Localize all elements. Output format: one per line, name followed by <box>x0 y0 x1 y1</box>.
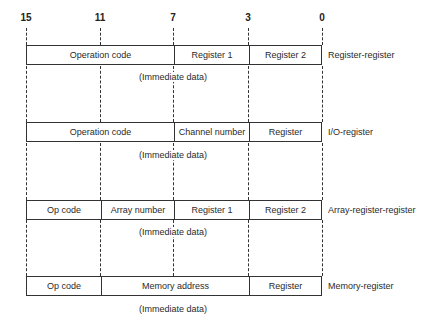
guide-line-3 <box>248 143 249 200</box>
immediate-data-label: (Immediate data) <box>138 304 208 314</box>
format-label-register-register: Register-register <box>328 45 395 65</box>
guide-line-3 <box>248 220 249 276</box>
field-memory-address: Memory address <box>101 277 249 295</box>
format-label-memory-register: Memory-register <box>328 276 394 296</box>
field-register-1: Register 1 <box>174 46 249 64</box>
field-array-number: Array number <box>101 201 174 219</box>
format-memory-register: Op code Memory address Register <box>26 276 322 296</box>
format-io-register: Operation code Channel number Register <box>26 122 322 142</box>
field-operation-code: Operation code <box>27 123 174 141</box>
immediate-data-label: (Immediate data) <box>138 227 208 237</box>
guide-line-0 <box>322 143 323 200</box>
format-register-register: Operation code Register 1 Register 2 <box>26 45 322 65</box>
guide-line-7 <box>173 28 174 45</box>
guide-line-3 <box>248 28 249 45</box>
bit-label-15: 15 <box>20 12 31 23</box>
field-register-1: Register 1 <box>174 201 249 219</box>
format-label-array-register-register: Array-register-register <box>328 200 416 220</box>
guide-line-11 <box>100 28 101 45</box>
bit-label-0: 0 <box>319 12 325 23</box>
field-register: Register <box>249 123 321 141</box>
guide-line-0 <box>322 220 323 276</box>
guide-line-11 <box>100 66 101 122</box>
field-register-2: Register 2 <box>249 201 321 219</box>
bit-label-3: 3 <box>245 12 251 23</box>
immediate-data-label: (Immediate data) <box>138 72 208 82</box>
field-register-2: Register 2 <box>249 46 321 64</box>
field-op-code: Op code <box>27 277 101 295</box>
guide-line-15 <box>26 220 27 276</box>
field-op-code: Op code <box>27 201 101 219</box>
guide-line-11 <box>100 220 101 276</box>
guide-line-15 <box>26 143 27 200</box>
field-register: Register <box>249 277 321 295</box>
guide-line-0 <box>322 66 323 122</box>
guide-line-0 <box>322 28 323 45</box>
guide-line-11 <box>100 143 101 200</box>
bit-label-11: 11 <box>95 12 106 23</box>
guide-line-15 <box>26 66 27 122</box>
field-channel-number: Channel number <box>174 123 249 141</box>
field-operation-code: Operation code <box>27 46 174 64</box>
guide-line-15 <box>26 28 27 45</box>
bit-label-7: 7 <box>170 12 176 23</box>
format-array-register-register: Op code Array number Register 1 Register… <box>26 200 322 220</box>
immediate-data-label: (Immediate data) <box>138 150 208 160</box>
format-label-io-register: I/O-register <box>328 122 373 142</box>
guide-line-3 <box>248 66 249 122</box>
